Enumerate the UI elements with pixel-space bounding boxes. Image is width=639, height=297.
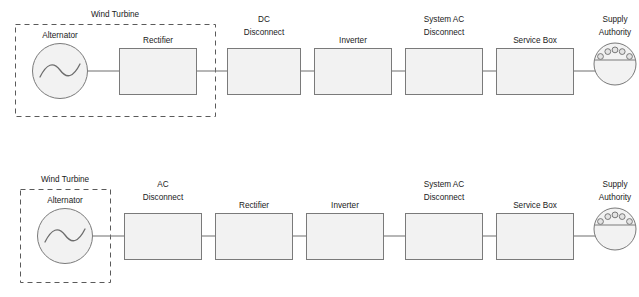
wind-turbine-system-diagram: Wind Turbine Alternator Rectifier — [0, 0, 639, 297]
service-box-label-row1: Service Box — [513, 36, 557, 45]
system-ac-disconnect-label-line1-row2: System AC — [424, 180, 465, 189]
alternator-label-row1: Alternator — [42, 31, 78, 40]
service-box-label-row2: Service Box — [513, 201, 557, 210]
system-ac-disconnect-label-line2-row2: Disconnect — [424, 193, 465, 202]
node-service-box-row1: Service Box — [497, 36, 574, 94]
service-box-box-row2 — [497, 214, 574, 260]
system-ac-disconnect-box-row2 — [406, 214, 483, 260]
ac-disconnect-box-row2 — [125, 214, 202, 260]
inverter-box-row2 — [307, 214, 384, 260]
supply-authority-label-line2-row2: Authority — [599, 193, 632, 202]
node-rectifier-row2: Rectifier — [216, 201, 293, 259]
node-service-box-row2: Service Box — [497, 201, 574, 259]
alternator-label-row2: Alternator — [47, 196, 83, 205]
node-inverter-row2: Inverter — [307, 201, 384, 259]
system-ac-disconnect-box-row1 — [406, 49, 483, 95]
rectifier-label-row2: Rectifier — [239, 201, 269, 210]
node-rectifier-row1: Rectifier — [120, 36, 197, 94]
dc-disconnect-label-line1-row1: DC — [258, 15, 270, 24]
node-ac-disconnect-row2: AC Disconnect — [125, 180, 202, 259]
ac-disconnect-label-line2-row2: Disconnect — [143, 193, 184, 202]
system-ac-disconnect-label-line2-row1: Disconnect — [424, 28, 465, 37]
supply-authority-label-line1-row1: Supply — [602, 15, 628, 24]
wind-turbine-group-label-row2: Wind Turbine — [41, 175, 90, 184]
system-ac-disconnect-label-line1-row1: System AC — [424, 15, 465, 24]
node-system-ac-disconnect-row2: System AC Disconnect — [406, 180, 483, 259]
wind-turbine-group-label-row1: Wind Turbine — [91, 10, 140, 19]
row-2: Wind Turbine Alternator AC Disconnect — [21, 175, 637, 282]
rectifier-box-row1 — [120, 49, 197, 95]
rectifier-box-row2 — [216, 214, 293, 260]
node-alternator-row2: Alternator — [38, 196, 93, 264]
supply-authority-label-line1-row2: Supply — [602, 180, 628, 189]
rectifier-label-row1: Rectifier — [143, 36, 173, 45]
node-supply-authority-row1: Supply Authority — [594, 15, 636, 85]
service-box-box-row1 — [497, 49, 574, 95]
node-dc-disconnect-row1: DC Disconnect — [228, 15, 301, 94]
inverter-box-row1 — [315, 49, 392, 95]
dc-disconnect-label-line2-row1: Disconnect — [244, 28, 285, 37]
node-system-ac-disconnect-row1: System AC Disconnect — [406, 15, 483, 94]
node-inverter-row1: Inverter — [315, 36, 392, 94]
supply-authority-label-line2-row1: Authority — [599, 28, 632, 37]
dc-disconnect-box-row1 — [228, 49, 301, 95]
inverter-label-row1: Inverter — [339, 36, 367, 45]
node-supply-authority-row2: Supply Authority — [594, 180, 636, 250]
ac-disconnect-label-line1-row2: AC — [157, 180, 168, 189]
node-alternator-row1: Alternator — [33, 31, 88, 99]
inverter-label-row2: Inverter — [331, 201, 359, 210]
row-1: Wind Turbine Alternator Rectifier — [16, 10, 637, 116]
